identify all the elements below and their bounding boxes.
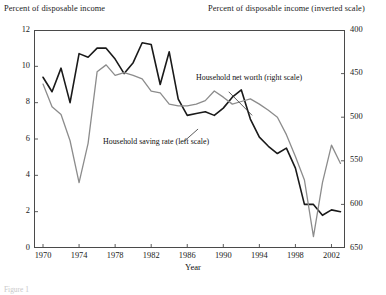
y-axis-left-tick-label: 10: [4, 61, 30, 70]
left-axis-title: Percent of disposable income: [4, 4, 105, 13]
x-axis-tick-label: 1982: [131, 251, 171, 260]
annotation-net-worth: Household net worth (right scale): [196, 73, 302, 82]
y-axis-right-tick-label: 600: [350, 199, 380, 208]
x-axis-tick-label: 1978: [95, 251, 135, 260]
x-axis-tick-label: 1990: [203, 251, 243, 260]
leader-line: [229, 92, 252, 116]
y-axis-right-tick-label: 550: [350, 155, 380, 164]
x-axis-tick-label: 1994: [239, 251, 279, 260]
y-axis-right-tick-label: 400: [350, 25, 380, 34]
y-axis-left-tick-label: 2: [4, 206, 30, 215]
y-axis-left-tick-label: 12: [4, 25, 30, 34]
y-axis-right-tick-label: 450: [350, 68, 380, 77]
figure-caption: Figure 1: [4, 285, 29, 294]
x-axis-tick-label: 1970: [23, 251, 63, 260]
annotation-saving-rate: Household saving rate (left scale): [103, 137, 209, 146]
right-axis-title: Percent of disposable income (inverted s…: [208, 4, 365, 13]
y-axis-right-tick-label: 650: [350, 243, 380, 252]
y-axis-left-tick-label: 6: [4, 134, 30, 143]
figure-household-saving-networth: Percent of disposable income Percent of …: [0, 0, 386, 295]
x-axis-tick-label: 1998: [275, 251, 315, 260]
x-axis-tick-label: 1986: [167, 251, 207, 260]
x-axis-tick-label: 1974: [59, 251, 99, 260]
y-axis-right-tick-label: 500: [350, 112, 380, 121]
y-axis-left-tick-label: 8: [4, 97, 30, 106]
y-axis-left-tick-label: 4: [4, 170, 30, 179]
x-axis-tick-label: 2002: [311, 251, 351, 260]
x-axis-title: Year: [0, 262, 386, 272]
